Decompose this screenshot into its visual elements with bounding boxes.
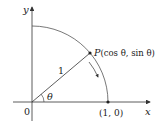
direction-arrow xyxy=(89,62,98,77)
point-P xyxy=(88,51,91,54)
unit-circle-diagram: y x 0 1 θ (1, 0) P(cos θ, sin θ) xyxy=(0,0,161,128)
angle-label: θ xyxy=(47,91,53,102)
x-axis-label: x xyxy=(145,106,151,117)
y-axis-label: y xyxy=(22,4,29,15)
unit-circle-arc xyxy=(32,26,108,102)
radius-label: 1 xyxy=(58,65,64,76)
point-1-0-label: (1, 0) xyxy=(99,108,123,118)
angle-arc xyxy=(41,94,44,102)
point-1-0 xyxy=(106,100,109,103)
origin-label: 0 xyxy=(24,106,30,117)
point-P-label: P(cos θ, sin θ) xyxy=(93,47,155,58)
radius-segment xyxy=(32,53,90,102)
point-P-coords: (cos θ, sin θ) xyxy=(100,48,154,58)
